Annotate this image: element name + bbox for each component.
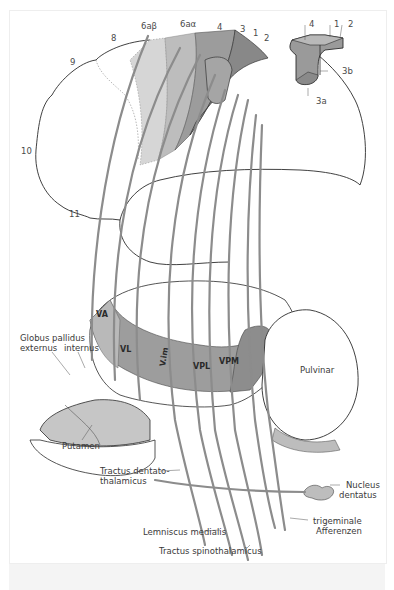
leader-lines [0,0,394,590]
